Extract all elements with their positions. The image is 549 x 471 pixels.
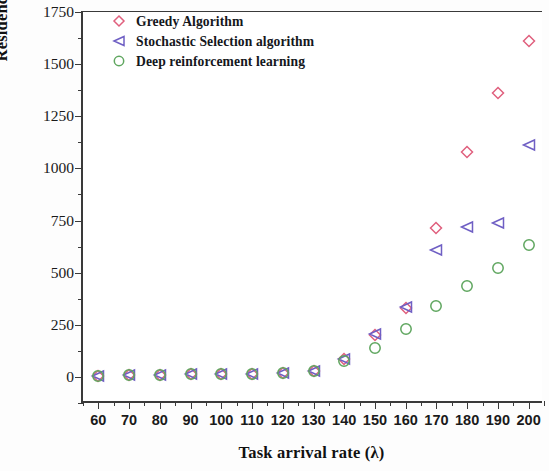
data-point xyxy=(307,365,320,378)
y-tick-label: 500 xyxy=(51,263,74,281)
y-tick-minor xyxy=(78,142,83,143)
x-axis-title: Task arrival rate (λ) xyxy=(81,443,542,463)
data-point xyxy=(276,366,289,379)
data-point xyxy=(184,368,197,381)
x-tick-label: 140 xyxy=(332,412,356,428)
y-tick-minor xyxy=(78,247,83,248)
x-tick-major xyxy=(252,401,253,409)
data-point xyxy=(461,280,474,293)
legend-item[interactable]: Greedy Algorithm xyxy=(110,12,314,31)
legend: Greedy AlgorithmStochastic Selection alg… xyxy=(110,12,314,72)
data-point xyxy=(215,367,228,380)
y-tick-major xyxy=(75,221,83,222)
x-tick-minor xyxy=(329,401,330,406)
x-tick-major xyxy=(221,401,222,409)
y-tick-minor xyxy=(78,38,83,39)
data-point xyxy=(368,328,381,341)
data-point xyxy=(399,301,412,314)
x-tick-label: 110 xyxy=(240,412,263,428)
legend-item[interactable]: Stochastic Selection algorithm xyxy=(110,32,314,51)
y-tick-major xyxy=(75,168,83,169)
triangle-left-icon xyxy=(110,34,136,50)
x-tick-major xyxy=(283,401,284,409)
data-point xyxy=(522,239,535,252)
y-tick-label: 750 xyxy=(51,211,74,229)
x-tick-major xyxy=(406,401,407,409)
x-tick-minor xyxy=(237,401,238,406)
x-tick-minor xyxy=(206,401,207,406)
x-tick-label: 120 xyxy=(271,412,295,428)
data-point xyxy=(461,221,474,234)
data-point xyxy=(92,369,105,382)
x-tick-major xyxy=(467,401,468,409)
x-tick-label: 90 xyxy=(182,412,198,428)
x-tick-label: 160 xyxy=(394,412,418,428)
x-tick-label: 190 xyxy=(486,412,510,428)
x-tick-major xyxy=(498,401,499,409)
x-tick-minor xyxy=(360,401,361,406)
x-tick-minor xyxy=(83,401,84,406)
data-point xyxy=(461,145,474,158)
y-tick-minor xyxy=(78,351,83,352)
y-tick-label: 1250 xyxy=(43,107,74,125)
x-tick-label: 130 xyxy=(301,412,325,428)
x-tick-major xyxy=(529,401,530,409)
x-tick-minor xyxy=(452,401,453,406)
y-tick-label: 1500 xyxy=(43,55,74,73)
data-point xyxy=(338,354,351,367)
x-tick-minor xyxy=(544,401,545,406)
legend-item-label: Deep reinforcement learning xyxy=(136,54,305,70)
legend-item-label: Greedy Algorithm xyxy=(136,14,243,30)
x-tick-minor xyxy=(483,401,484,406)
data-point xyxy=(491,86,504,99)
chart-figure: Residence time (ms) Task arrival rate (λ… xyxy=(0,0,549,471)
y-tick-major xyxy=(75,325,83,326)
data-point xyxy=(399,322,412,335)
x-tick-minor xyxy=(267,401,268,406)
x-tick-major xyxy=(191,401,192,409)
data-point xyxy=(153,368,166,381)
y-tick-label: 250 xyxy=(51,316,74,334)
x-tick-major xyxy=(314,401,315,409)
x-tick-label: 170 xyxy=(424,412,448,428)
x-tick-label: 70 xyxy=(121,412,137,428)
x-tick-label: 150 xyxy=(363,412,387,428)
data-point xyxy=(491,217,504,230)
x-tick-minor xyxy=(298,401,299,406)
x-tick-major xyxy=(375,401,376,409)
legend-item[interactable]: Deep reinforcement learning xyxy=(110,52,314,71)
x-tick-minor xyxy=(175,401,176,406)
legend-item-label: Stochastic Selection algorithm xyxy=(136,34,314,50)
x-tick-minor xyxy=(144,401,145,406)
data-point xyxy=(430,300,443,313)
x-tick-major xyxy=(98,401,99,409)
y-tick-major xyxy=(75,64,83,65)
y-tick-major xyxy=(75,273,83,274)
x-tick-major xyxy=(436,401,437,409)
data-point xyxy=(123,369,136,382)
x-tick-major xyxy=(129,401,130,409)
x-tick-label: 200 xyxy=(517,412,541,428)
y-tick-major xyxy=(75,377,83,378)
y-tick-label: 0 xyxy=(66,368,74,386)
data-point xyxy=(491,261,504,274)
y-tick-minor xyxy=(78,90,83,91)
circle-icon xyxy=(110,54,136,70)
y-tick-label: 1750 xyxy=(43,3,74,21)
x-tick-major xyxy=(344,401,345,409)
data-point xyxy=(368,341,381,354)
y-tick-major xyxy=(75,12,83,13)
y-tick-label: 1000 xyxy=(43,159,74,177)
x-tick-label: 100 xyxy=(209,412,233,428)
y-tick-minor xyxy=(78,299,83,300)
data-point xyxy=(522,34,535,47)
x-tick-minor xyxy=(114,401,115,406)
y-tick-minor xyxy=(78,194,83,195)
x-tick-label: 180 xyxy=(455,412,479,428)
y-axis-title: Residence time (ms) xyxy=(0,0,12,104)
x-tick-label: 60 xyxy=(90,412,106,428)
x-tick-minor xyxy=(390,401,391,406)
x-tick-major xyxy=(160,401,161,409)
x-tick-label: 80 xyxy=(152,412,168,428)
data-point xyxy=(522,138,535,151)
